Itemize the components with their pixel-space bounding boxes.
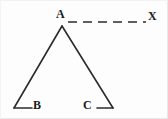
vertex-label-b: B (33, 99, 41, 111)
geometry-figure-canvas: A X B C (0, 0, 168, 119)
vertex-label-a: A (56, 8, 65, 20)
vertex-label-x: X (148, 10, 157, 22)
vertex-label-c: C (83, 99, 92, 111)
segment-ab (14, 26, 62, 108)
segment-ac (62, 26, 113, 108)
